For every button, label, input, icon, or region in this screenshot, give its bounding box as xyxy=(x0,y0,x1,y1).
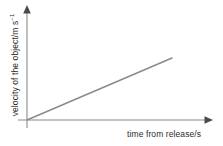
x-axis-arrowhead xyxy=(205,116,214,124)
data-line-velocity xyxy=(27,58,172,120)
x-axis-label: time from release/s xyxy=(127,129,201,139)
y-axis-label-superscript: −1 xyxy=(9,14,15,21)
velocity-time-graph: velocity of the object/m s−1 time from r… xyxy=(0,0,223,146)
y-axis-label-container: velocity of the object/m s−1 xyxy=(0,0,20,128)
plot-area xyxy=(0,0,223,146)
y-axis-label-text: velocity of the object/m s xyxy=(10,21,20,117)
y-axis-arrowhead xyxy=(23,5,31,14)
y-axis-label: velocity of the object/m s−1 xyxy=(10,5,20,125)
